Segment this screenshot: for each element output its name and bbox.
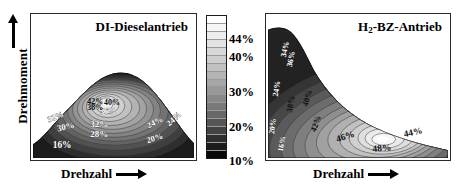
- colorbar-cell: [207, 55, 226, 63]
- contour-plot-fuelcell: 34% 36% 24% 20% 16% 38% 40% 42% 44% 46% …: [266, 14, 450, 160]
- colorbar-cell: [207, 16, 226, 23]
- contour-label-44: 44%: [403, 125, 424, 139]
- colorbar-tick-44: 44%: [229, 32, 254, 47]
- arrow-right-icon-right: [368, 173, 392, 176]
- chart-panel-fuelcell[interactable]: 34% 36% 24% 20% 16% 38% 40% 42% 44% 46% …: [265, 13, 451, 161]
- x-axis-right: Drehzahl: [313, 166, 392, 182]
- colorbar-cell: [207, 126, 226, 134]
- colorbar-legend[interactable]: [206, 15, 227, 159]
- colorbar-cell: [207, 86, 226, 94]
- arrow-right-icon-left: [116, 173, 140, 176]
- contour-bands-diesel: [31, 14, 196, 160]
- colorbar-cell: [207, 142, 226, 150]
- contour-plot-diesel: 16% 20% 24% 24% 28% 30% 32% 32% 36% 38% …: [31, 14, 196, 160]
- chart-panel-diesel[interactable]: 16% 20% 24% 24% 28% 30% 32% 32% 36% 38% …: [30, 13, 197, 161]
- colorbar-cell: [207, 47, 226, 55]
- colorbar-cell: [207, 63, 226, 71]
- panel-title-diesel: DI-Dieselantrieb: [96, 19, 188, 35]
- contour-label-28: 28%: [90, 129, 108, 139]
- colorbar-tick-40: 40%: [229, 50, 254, 65]
- colorbar-cell: [207, 150, 226, 158]
- colorbar-cell: [207, 118, 226, 126]
- colorbar-tick-labels: 44% 40% 30% 20% 10%: [229, 13, 265, 161]
- y-axis-label-left: Drehmoment: [15, 41, 31, 131]
- colorbar-cell: [207, 79, 226, 87]
- contour-label-42: 42%: [87, 97, 103, 106]
- colorbar-tick-20: 20%: [229, 120, 254, 135]
- colorbar-tick-10: 10%: [229, 154, 254, 169]
- colorbar-cell: [207, 134, 226, 142]
- colorbar-cell: [207, 23, 226, 31]
- x-axis-label-left: Drehzahl: [61, 166, 112, 182]
- contour-label-40: 40%: [104, 98, 120, 107]
- colorbar-cell: [207, 94, 226, 102]
- panel-title-fuelcell: H2-BZ-Antrieb: [358, 19, 442, 35]
- x-axis-left: Drehzahl: [61, 166, 140, 182]
- colorbar-cell: [207, 102, 226, 110]
- panel-title-fuelcell-suffix: -BZ-Antrieb: [373, 19, 442, 34]
- contour-label-16: 16%: [53, 140, 72, 150]
- contour-label-32: 32%: [90, 119, 108, 129]
- colorbar-cell: [207, 39, 226, 47]
- colorbar-cell: [207, 110, 226, 118]
- panel-title-fuelcell-prefix: H: [358, 19, 368, 34]
- contour-label-48: 48%: [372, 142, 392, 154]
- contour-bands-fuelcell: [266, 14, 450, 160]
- x-axis-label-right: Drehzahl: [313, 166, 364, 182]
- colorbar-cell: [207, 31, 226, 39]
- colorbar-tick-30: 30%: [229, 85, 254, 100]
- colorbar-cell: [207, 71, 226, 79]
